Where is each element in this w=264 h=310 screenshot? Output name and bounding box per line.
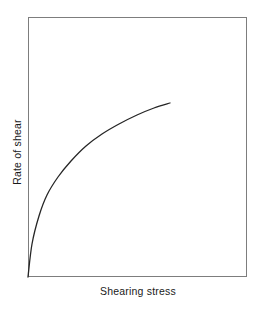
figure-canvas: Rate of shear Shearing stress (0, 0, 264, 310)
y-axis-title: Rate of shear (11, 119, 23, 185)
x-axis-title: Shearing stress (100, 285, 176, 297)
plot-frame (28, 17, 247, 277)
